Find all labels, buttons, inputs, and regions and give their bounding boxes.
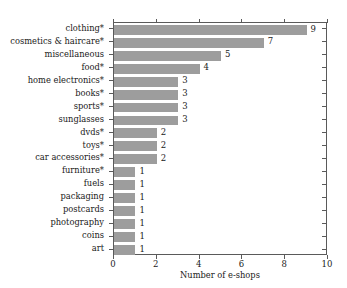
category-label: coins	[82, 229, 104, 242]
category-label: miscellaneous	[45, 48, 104, 61]
y-axis-tick	[109, 54, 114, 55]
bar-value-label: 1	[139, 243, 144, 257]
y-axis-tick-right	[322, 184, 327, 185]
bar	[114, 77, 178, 87]
category-label: food*	[81, 61, 104, 74]
bar-value-label: 1	[139, 230, 144, 244]
y-axis-tick	[109, 210, 114, 211]
y-axis-tick-right	[322, 80, 327, 81]
y-axis-tick	[109, 67, 114, 68]
category-label: toys*	[83, 139, 104, 152]
category-label: furniture*	[62, 164, 104, 177]
y-axis-tick-right	[322, 145, 327, 146]
y-axis-tick	[109, 171, 114, 172]
y-axis-tick	[109, 106, 114, 107]
bar	[114, 180, 135, 190]
y-axis-tick-right	[322, 67, 327, 68]
x-axis-tick-top	[327, 19, 328, 23]
bar-row: 1	[114, 243, 326, 256]
category-label: art	[92, 242, 104, 255]
bar-value-label: 2	[161, 139, 166, 153]
bar	[114, 245, 135, 255]
y-axis-tick-right	[322, 132, 327, 133]
bar	[114, 116, 178, 126]
x-axis-tick-label: 10	[315, 259, 339, 270]
y-axis-tick-right	[322, 106, 327, 107]
category-label: fuels	[84, 177, 104, 190]
bar	[114, 128, 157, 138]
bar	[114, 25, 307, 35]
bar-value-label: 9	[311, 23, 316, 37]
y-axis-tick	[109, 249, 114, 250]
category-label: sunglasses	[58, 113, 104, 126]
category-label: dvds*	[80, 126, 104, 139]
bar-row: 3	[114, 75, 326, 88]
bar-row: 2	[114, 140, 326, 153]
y-axis-tick	[109, 119, 114, 120]
bar-value-label: 3	[182, 100, 187, 114]
category-label: packaging	[61, 190, 105, 203]
category-label: car accessories*	[35, 151, 104, 164]
bar-row: 9	[114, 23, 326, 36]
y-axis-tick-right	[322, 93, 327, 94]
bar-chart-figure: clothing*cosmetics & haircare*miscellane…	[0, 0, 347, 288]
x-axis-tick-top	[199, 19, 200, 23]
category-label: photography	[50, 216, 104, 229]
bar-value-label: 1	[139, 178, 144, 192]
y-axis-tick	[109, 41, 114, 42]
bar-value-label: 2	[161, 126, 166, 140]
bar	[114, 64, 200, 74]
bar	[114, 232, 135, 242]
y-axis-tick-right	[322, 28, 327, 29]
y-axis-tick	[109, 80, 114, 81]
x-axis-tick-top	[284, 19, 285, 23]
bar-row: 1	[114, 178, 326, 191]
bar-row: 3	[114, 101, 326, 114]
bar-row: 1	[114, 230, 326, 243]
bar-row: 2	[114, 127, 326, 140]
x-axis-tick-label: 2	[144, 259, 168, 270]
y-axis-tick	[109, 223, 114, 224]
bar	[114, 141, 157, 151]
bar	[114, 103, 178, 113]
bar	[114, 90, 178, 100]
y-axis-tick-right	[322, 223, 327, 224]
bar-row: 7	[114, 36, 326, 49]
x-axis-tick-label: 8	[272, 259, 296, 270]
category-label: clothing*	[66, 22, 104, 35]
y-axis-tick	[109, 158, 114, 159]
category-label: books*	[75, 87, 104, 100]
bar-value-label: 7	[268, 35, 273, 49]
bar-row: 1	[114, 165, 326, 178]
bar-row: 1	[114, 217, 326, 230]
y-axis-tick-right	[322, 236, 327, 237]
bar-value-label: 2	[161, 152, 166, 166]
y-axis-tick	[109, 132, 114, 133]
bar-row: 3	[114, 88, 326, 101]
x-axis-tick-top	[113, 19, 114, 23]
y-axis-tick-right	[322, 41, 327, 42]
y-axis-tick	[109, 197, 114, 198]
x-axis-tick-top	[241, 19, 242, 23]
y-axis-tick-right	[322, 171, 327, 172]
bar-row: 5	[114, 49, 326, 62]
category-axis-labels: clothing*cosmetics & haircare*miscellane…	[0, 22, 108, 255]
bar-value-label: 1	[139, 217, 144, 231]
bar-value-label: 3	[182, 113, 187, 127]
bar	[114, 51, 221, 61]
y-axis-tick	[109, 184, 114, 185]
y-axis-tick-right	[322, 197, 327, 198]
x-axis-tick-label: 4	[187, 259, 211, 270]
bar-row: 3	[114, 114, 326, 127]
bar-row: 2	[114, 152, 326, 165]
bar	[114, 219, 135, 229]
bar	[114, 193, 135, 203]
y-axis-tick-right	[322, 249, 327, 250]
y-axis-tick-right	[322, 54, 327, 55]
x-axis-tick-label: 6	[229, 259, 253, 270]
y-axis-tick-right	[322, 119, 327, 120]
bar-row: 1	[114, 191, 326, 204]
bar-value-label: 3	[182, 74, 187, 88]
category-label: home electronics*	[28, 74, 104, 87]
y-axis-tick	[109, 28, 114, 29]
